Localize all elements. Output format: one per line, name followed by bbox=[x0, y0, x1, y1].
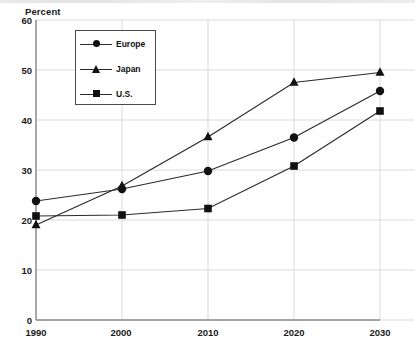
legend-label: Europe bbox=[116, 39, 145, 49]
data-point-japan-2010 bbox=[204, 132, 213, 141]
data-point-europe-2020 bbox=[290, 133, 298, 141]
square-marker-icon bbox=[79, 86, 113, 102]
data-point-europe-2010 bbox=[204, 167, 212, 175]
data-point-us-2010 bbox=[204, 205, 212, 213]
line-chart: Percent 60 50 40 30 20 10 0 1990 2000 20… bbox=[0, 0, 415, 348]
circle-marker-icon bbox=[79, 36, 113, 52]
triangle-marker-icon bbox=[79, 61, 113, 77]
legend-item-japan: Japan bbox=[76, 56, 157, 81]
legend-item-us: U.S. bbox=[76, 81, 157, 106]
data-point-us-2030 bbox=[376, 107, 384, 115]
data-point-japan-2030 bbox=[376, 67, 385, 76]
plot-area bbox=[0, 0, 415, 348]
legend-label: Japan bbox=[116, 64, 141, 74]
data-point-japan-2000 bbox=[118, 181, 127, 190]
chart-legend: Europe Japan U.S. bbox=[75, 30, 156, 105]
data-point-us-2020 bbox=[290, 162, 298, 170]
legend-item-europe: Europe bbox=[76, 31, 157, 56]
data-point-us-1990 bbox=[32, 212, 40, 220]
legend-label: U.S. bbox=[116, 89, 133, 99]
data-point-us-2000 bbox=[118, 211, 126, 219]
data-point-europe-2030 bbox=[376, 87, 384, 95]
data-point-europe-1990 bbox=[32, 197, 40, 205]
